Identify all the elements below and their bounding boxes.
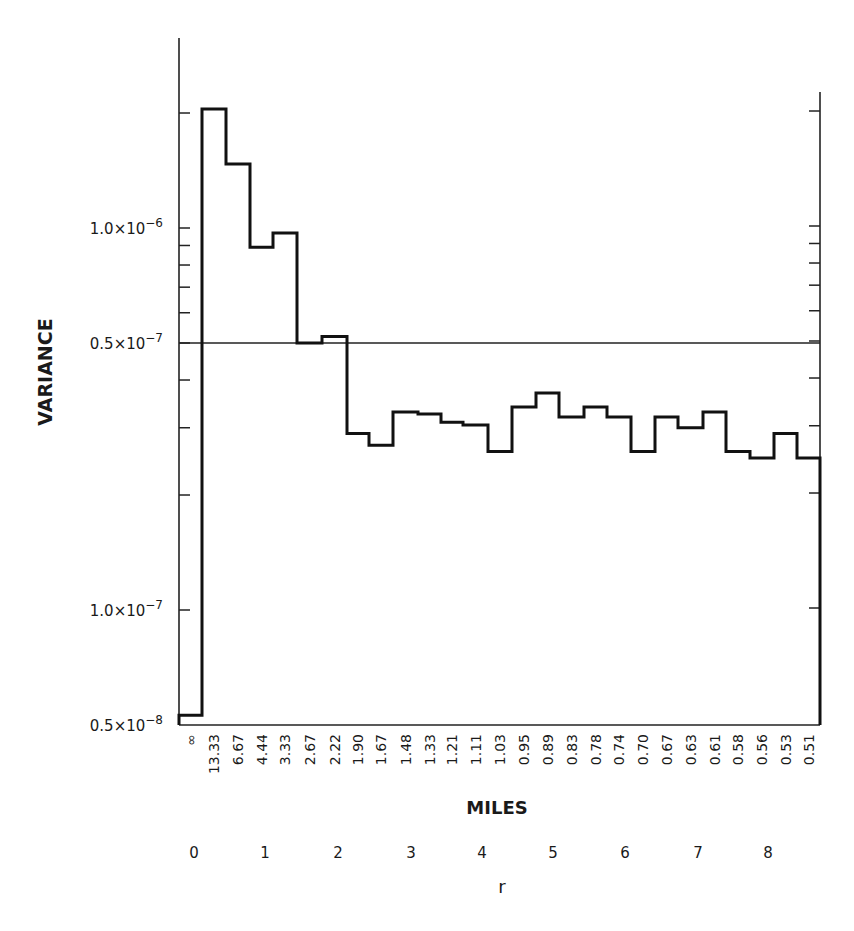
r-tick-label: 0 bbox=[189, 844, 199, 862]
r-tick-label: 7 bbox=[693, 844, 703, 862]
r-tick-label: 4 bbox=[477, 844, 487, 862]
r-axis-title: r bbox=[498, 876, 506, 897]
x-tick-label: 1.21 bbox=[444, 734, 460, 765]
x-tick-label: 1.11 bbox=[468, 734, 484, 765]
x-tick-label: 4.44 bbox=[254, 734, 270, 765]
x-tick-label: 0.61 bbox=[707, 734, 723, 765]
x-tick-label: 0.67 bbox=[659, 734, 675, 765]
x-tick-label: 2.67 bbox=[302, 734, 318, 765]
r-tick-label: 8 bbox=[763, 844, 773, 862]
x-tick-label: 0.53 bbox=[778, 734, 794, 765]
x-tick-label: 13.33 bbox=[206, 734, 222, 774]
r-tick-labels: 012345678 bbox=[189, 844, 773, 862]
x-tick-label: 0.56 bbox=[754, 734, 770, 765]
axes bbox=[179, 38, 820, 725]
y-tick-label: 0.5×10−7 bbox=[90, 331, 163, 353]
histogram-step-line bbox=[179, 109, 820, 725]
r-tick-label: 2 bbox=[333, 844, 343, 862]
x-tick-label: 1.33 bbox=[422, 734, 438, 765]
variance-chart: 1.0×10−60.5×10−71.0×10−70.5×10−8 ∞13.336… bbox=[0, 0, 854, 931]
x-tick-label: 1.03 bbox=[492, 734, 508, 765]
r-tick-label: 3 bbox=[406, 844, 416, 862]
x-tick-label: 1.90 bbox=[350, 734, 366, 765]
x-tick-label: 3.33 bbox=[277, 734, 293, 765]
x-axis-title: MILES bbox=[466, 797, 527, 818]
y-tick-label: 1.0×10−7 bbox=[90, 598, 163, 620]
x-tick-label: 0.95 bbox=[516, 734, 532, 765]
y-tick-label: 0.5×10−8 bbox=[90, 713, 163, 735]
y-tick-labels: 1.0×10−60.5×10−71.0×10−70.5×10−8 bbox=[90, 216, 163, 735]
x-tick-label: 0.89 bbox=[540, 734, 556, 765]
x-tick-label: 2.22 bbox=[327, 734, 343, 765]
x-tick-label: 0.83 bbox=[564, 734, 580, 765]
r-tick-label: 5 bbox=[548, 844, 558, 862]
x-tick-label: 0.58 bbox=[730, 734, 746, 765]
y-ticks bbox=[179, 111, 820, 610]
y-axis-title: VARIANCE bbox=[34, 318, 56, 425]
x-tick-labels: ∞13.336.674.443.332.672.221.901.671.481.… bbox=[183, 734, 817, 774]
r-tick-label: 1 bbox=[260, 844, 270, 862]
r-tick-label: 6 bbox=[620, 844, 630, 862]
y-tick-label: 1.0×10−6 bbox=[90, 216, 163, 238]
x-tick-label: 0.70 bbox=[635, 734, 651, 765]
x-tick-label: ∞ bbox=[183, 734, 199, 746]
x-tick-label: 1.67 bbox=[373, 734, 389, 765]
x-tick-label: 0.63 bbox=[683, 734, 699, 765]
x-tick-label: 0.51 bbox=[801, 734, 817, 765]
x-tick-label: 0.78 bbox=[588, 734, 604, 765]
x-tick-label: 0.74 bbox=[611, 734, 627, 765]
x-tick-label: 6.67 bbox=[230, 734, 246, 765]
x-tick-label: 1.48 bbox=[398, 734, 414, 765]
